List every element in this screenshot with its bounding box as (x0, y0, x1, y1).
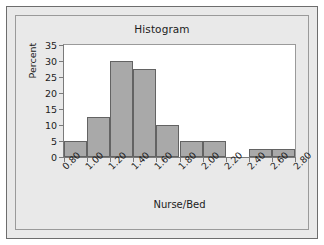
y-axis-tick-label: 35 (35, 40, 57, 51)
x-axis-title: Nurse/Bed (63, 199, 296, 210)
y-axis-tick (59, 77, 64, 78)
page-title: Histogram (16, 23, 308, 35)
y-axis-tick (59, 45, 64, 46)
y-axis-tick-label: 25 (35, 72, 57, 83)
y-axis-tick-label: 0 (35, 152, 57, 163)
y-axis-tick-label: 5 (35, 136, 57, 147)
y-axis-tick (59, 93, 64, 94)
plot-area: 051015202530350.801.001.201.401.601.802.… (63, 44, 296, 158)
histogram-bar (133, 69, 156, 157)
y-axis-tick-label: 15 (35, 104, 57, 115)
y-axis-tick-label: 10 (35, 120, 57, 131)
y-axis-tick (59, 125, 64, 126)
figure-outer-border: Histogram Percent 051015202530350.801.00… (0, 0, 324, 245)
chart-panel: Histogram Percent 051015202530350.801.00… (15, 15, 309, 230)
y-axis-tick (59, 141, 64, 142)
bars-layer (64, 45, 295, 157)
figure-frame: Histogram Percent 051015202530350.801.00… (6, 6, 318, 239)
y-axis-tick (59, 61, 64, 62)
y-axis-tick (59, 109, 64, 110)
y-axis-tick-label: 20 (35, 88, 57, 99)
histogram-bar (110, 61, 133, 157)
y-axis-tick-label: 30 (35, 56, 57, 67)
